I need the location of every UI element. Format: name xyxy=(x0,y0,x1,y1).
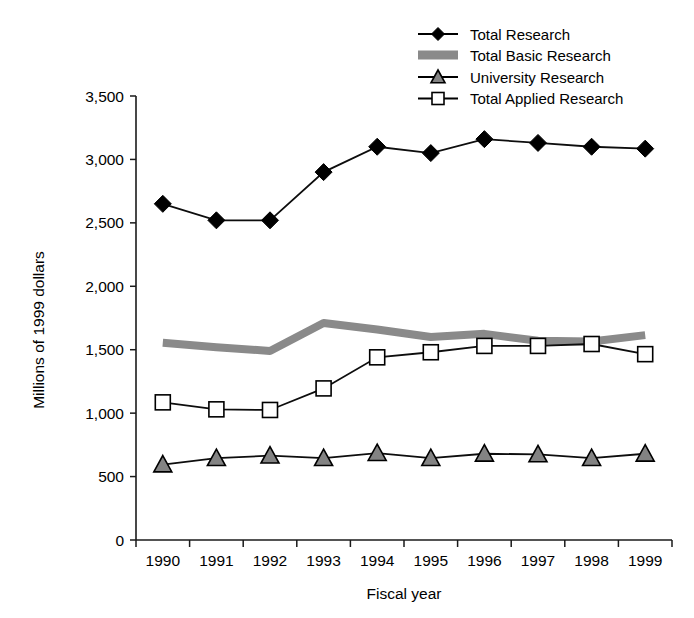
marker-square xyxy=(423,345,438,360)
marker-diamond xyxy=(530,134,547,151)
marker-triangle xyxy=(368,444,386,460)
x-tick-label: 1993 xyxy=(306,552,340,569)
marker-square xyxy=(584,337,599,352)
y-tick-label: 3,000 xyxy=(85,151,124,168)
legend-item: Total Research xyxy=(418,26,570,43)
marker-square xyxy=(638,347,653,362)
y-axis-title: Millions of 1999 dollars xyxy=(30,251,47,409)
legend-marker-square xyxy=(432,93,444,105)
legend-item: Total Basic Research xyxy=(418,47,611,64)
marker-triangle xyxy=(261,447,279,463)
y-axis-tick-labels: 05001,0001,5002,0002,5003,0003,500 xyxy=(85,88,124,549)
series-lines-group xyxy=(163,139,645,464)
marker-square xyxy=(209,402,224,417)
legend-item-label: Total Research xyxy=(470,26,570,43)
x-tick-label: 1991 xyxy=(199,552,233,569)
marker-diamond xyxy=(637,140,654,157)
x-tick-label: 1992 xyxy=(253,552,287,569)
y-tick-label: 1,000 xyxy=(85,405,124,422)
marker-diamond xyxy=(208,212,225,229)
marker-square xyxy=(370,350,385,365)
marker-diamond xyxy=(154,195,171,212)
x-tick-label: 1999 xyxy=(628,552,662,569)
x-tick-label: 1997 xyxy=(521,552,555,569)
y-tick-label: 3,500 xyxy=(85,88,124,105)
y-tick-label: 500 xyxy=(98,468,124,485)
x-tick-label: 1996 xyxy=(467,552,501,569)
x-axis-title: Fiscal year xyxy=(367,585,442,602)
legend-item-label: University Research xyxy=(470,69,604,86)
chart-figure: 05001,0001,5002,0002,5003,0003,500 19901… xyxy=(0,0,694,618)
legend-item-label: Total Applied Research xyxy=(470,90,623,107)
marker-square xyxy=(263,402,278,417)
marker-square xyxy=(531,338,546,353)
y-tick-label: 0 xyxy=(115,532,124,549)
x-tick-label: 1995 xyxy=(414,552,448,569)
series-line-total-applied-research xyxy=(163,344,645,410)
legend-item-label: Total Basic Research xyxy=(470,47,611,64)
y-tick-label: 1,500 xyxy=(85,341,124,358)
x-tick-label: 1994 xyxy=(360,552,395,569)
marker-diamond xyxy=(422,145,439,162)
series-line-university-research xyxy=(163,453,645,464)
legend-item: University Research xyxy=(418,69,604,86)
legend-item: Total Applied Research xyxy=(418,90,623,107)
marker-square xyxy=(316,381,331,396)
series-markers-group xyxy=(154,131,654,472)
axis-group xyxy=(136,96,672,540)
y-tick-label: 2,500 xyxy=(85,214,124,231)
marker-square xyxy=(155,395,170,410)
line-chart: 05001,0001,5002,0002,5003,0003,500 19901… xyxy=(0,0,694,618)
marker-triangle xyxy=(636,445,654,461)
marker-diamond xyxy=(476,131,493,148)
series-line-total-research xyxy=(163,139,645,220)
marker-square xyxy=(477,338,492,353)
y-axis-ticks xyxy=(130,96,136,540)
series-total-basic-research xyxy=(163,323,645,351)
marker-diamond xyxy=(369,138,386,155)
x-tick-label: 1998 xyxy=(574,552,608,569)
marker-diamond xyxy=(583,138,600,155)
legend-swatch-band xyxy=(418,51,458,60)
series-band-total-basic-research xyxy=(163,323,645,351)
x-axis-ticks xyxy=(136,540,672,547)
x-axis-tick-labels: 1990199119921993199419951996199719981999 xyxy=(146,552,663,569)
chart-legend: Total ResearchTotal Basic ResearchUniver… xyxy=(418,26,623,108)
legend-marker-diamond xyxy=(432,28,445,41)
x-tick-label: 1990 xyxy=(146,552,181,569)
y-tick-label: 2,000 xyxy=(85,278,124,295)
